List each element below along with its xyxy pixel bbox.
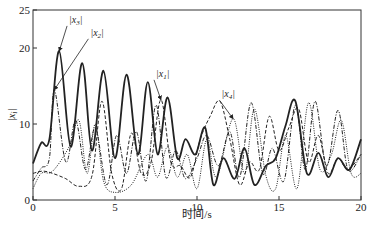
x-axis-label: 时间/s — [182, 208, 211, 220]
y-axis-label: |xi| — [5, 108, 19, 121]
y-axis-label-bar: | — [5, 108, 17, 111]
x-tick-label: 15 — [274, 201, 286, 213]
y-tick-label: 25 — [19, 4, 31, 16]
x-tick-label: 5 — [112, 201, 118, 213]
y-tick-label: 0 — [25, 194, 31, 206]
y-tick-label: 20 — [19, 42, 31, 54]
y-axis-label-group: |xi| — [5, 108, 19, 121]
x-tick-label: 20 — [356, 201, 368, 213]
line-chart: 051015200102025 |x3||x2||x1||x4| 时间/s |x… — [0, 0, 373, 228]
x-tick-label: 0 — [30, 201, 36, 213]
y-tick-label: 10 — [19, 118, 31, 130]
